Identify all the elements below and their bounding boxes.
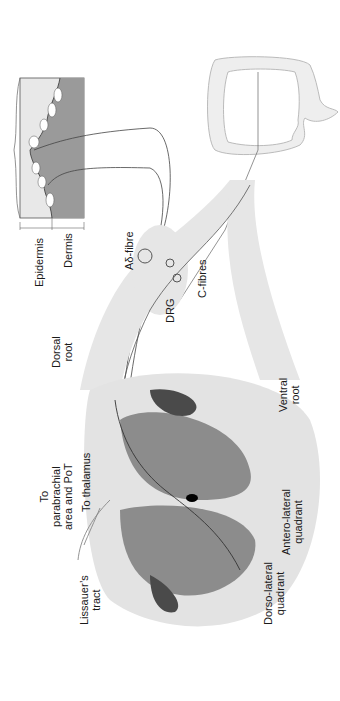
label-a-delta-fibre: Aδ-fibre [123, 231, 135, 270]
label-dorso-lateral: Dorso-lateralquadrant [262, 562, 286, 625]
label-dermis: Dermis [62, 233, 74, 268]
label-to-thalamus: To thalamus [80, 453, 92, 512]
central-canal [186, 494, 198, 502]
label-c-fibres: C-fibres [196, 259, 208, 298]
label-antero-lateral: Antero-lateralquadrant [280, 489, 304, 555]
label-epidermis: Epidermis [33, 238, 45, 287]
label-ventral-root: Ventralroot [277, 378, 301, 412]
pain-pathway-diagram: Epidermis Dermis Aδ-fibre DRG C-fibres D… [0, 0, 340, 701]
skin-inset [14, 78, 84, 230]
label-dorsal-root: Dorsalroot [50, 336, 74, 368]
label-lissauer-tract: Lissauer’stract [78, 575, 102, 625]
colon-illustration [208, 57, 339, 155]
label-to-parabrachial: Toparabrachialarea and PoT [38, 463, 74, 530]
label-drg: DRG [164, 299, 176, 323]
